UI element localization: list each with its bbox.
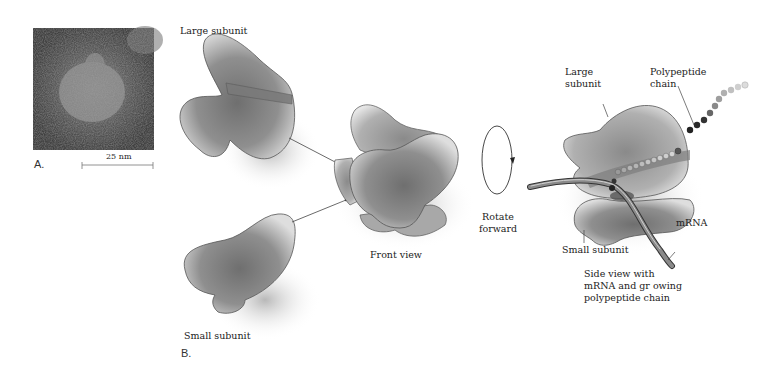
caption-line1: Side view with: [584, 268, 682, 280]
scale-bar: [82, 162, 153, 169]
ribosome-diagram: A. 25 nm Large subunit Small subunit B. …: [0, 0, 771, 365]
side-view-caption: Side view with mRNA and gr owing polypep…: [584, 268, 682, 304]
rotate-forward-arrow-icon: [482, 126, 515, 194]
caption-line2: mRNA and gr owing: [584, 280, 682, 292]
rotate-label-line2: forward: [476, 223, 520, 235]
rotate-forward-label: Rotate forward: [476, 211, 520, 235]
front-view-label: Front view: [370, 249, 422, 261]
side-large-line1: Large: [565, 66, 601, 78]
caption-line3: polypeptide chain: [584, 292, 682, 304]
polypeptide-line1: Polypeptide: [650, 66, 706, 78]
panel-a-label: A.: [34, 158, 44, 170]
front-view-ribosome: [334, 105, 475, 250]
polypeptide-line2: chain: [650, 78, 706, 90]
side-large-line2: subunit: [565, 78, 601, 90]
rotate-label-line1: Rotate: [476, 211, 520, 223]
side-large-subunit-label: Large subunit: [565, 66, 601, 90]
electron-micrograph: [33, 26, 163, 150]
scale-bar-label: 25 nm: [106, 151, 131, 163]
panel-b-label: B.: [181, 347, 191, 359]
mrna-label: mRNA: [676, 217, 707, 229]
diagram-artwork: [0, 0, 771, 365]
large-subunit-shape: [180, 34, 320, 190]
side-small-subunit-label: Small subunit: [562, 244, 628, 256]
large-subunit-label: Large subunit: [180, 25, 247, 37]
small-subunit-shape: [184, 214, 320, 340]
small-subunit-label: Small subunit: [184, 330, 250, 342]
polypeptide-chain-label: Polypeptide chain: [650, 66, 706, 90]
